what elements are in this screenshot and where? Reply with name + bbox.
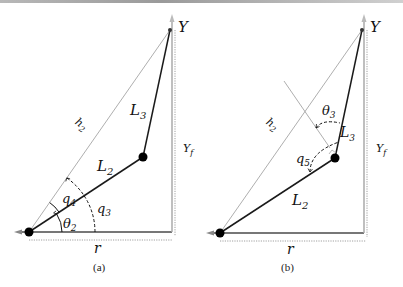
- caption-a: (a): [93, 261, 106, 274]
- label-r: r: [94, 240, 102, 256]
- label-h2: h2: [262, 115, 281, 134]
- base-joint: [216, 229, 225, 238]
- right-angle-marker: [329, 150, 336, 154]
- label-l3: L3: [129, 101, 146, 121]
- label-target-y: Y: [178, 18, 190, 36]
- label-target-y: Y: [370, 18, 382, 36]
- link-l2: [29, 157, 143, 232]
- vertical-arrow-icon: [170, 14, 175, 22]
- vertical-arrow-icon: [362, 14, 367, 22]
- label-l2: L2: [96, 157, 113, 177]
- panel-a: Y Yf h2 L3 L2 q4 q3 θ2 r (a): [14, 14, 195, 274]
- link-l2: [220, 158, 335, 233]
- label-q3: q3: [97, 201, 111, 218]
- label-theta3: θ3: [322, 103, 336, 120]
- elbow-joint: [331, 154, 340, 163]
- panel-b: Y Yf h2 θ3 L3 q5 L2 r (b): [206, 14, 388, 274]
- label-q5: q5: [296, 151, 310, 168]
- label-q4: q4: [62, 191, 76, 208]
- end-effector-point: [360, 28, 364, 32]
- label-yf: Yf: [376, 142, 388, 157]
- label-theta2: θ2: [63, 216, 77, 233]
- label-l3: L3: [339, 124, 355, 143]
- label-l2: L2: [291, 191, 308, 211]
- arm-kinematics-diagram: Y Yf h2 L3 L2 q4 q3 θ2 r (a): [0, 0, 403, 287]
- label-h2: h2: [71, 115, 90, 134]
- base-arrow-icon: [14, 230, 22, 235]
- q4-arc: [50, 203, 60, 213]
- base-joint: [25, 228, 34, 237]
- label-r: r: [287, 241, 295, 257]
- base-arrow-icon: [206, 231, 214, 236]
- end-effector-point: [168, 28, 172, 32]
- theta2-arc: [57, 214, 62, 232]
- theta3-dashed-arc: [316, 122, 340, 128]
- label-yf: Yf: [183, 142, 195, 157]
- elbow-joint: [139, 153, 148, 162]
- caption-b: (b): [281, 261, 294, 274]
